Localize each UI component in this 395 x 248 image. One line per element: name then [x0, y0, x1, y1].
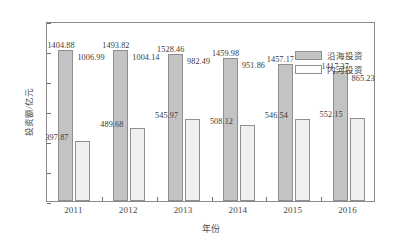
value-label-inland: 545.97 [155, 111, 178, 120]
y-axis-title: 投资额/亿元 [22, 88, 34, 135]
plot-area: 1404.881006.99397.871493.821004.14489.68… [46, 22, 375, 202]
legend-swatch-coastal [295, 51, 322, 60]
value-label-inland: 489.68 [100, 120, 123, 129]
y-tick [47, 203, 51, 204]
x-tick-label: 2015 [283, 205, 302, 215]
bar-inland [130, 128, 145, 201]
x-tick-label: 2013 [174, 205, 193, 215]
value-label-coastal: 1004.14 [132, 53, 159, 62]
x-tick [102, 197, 103, 201]
value-label-coastal: 1006.99 [77, 53, 104, 62]
bar-inland [240, 125, 255, 201]
legend-label-coastal: 沿海投资 [327, 49, 363, 61]
bar-coastal [168, 54, 183, 201]
value-label-coastal-upper: 1493.82 [102, 41, 129, 50]
legend: 沿海投资 内河投资 [290, 45, 368, 79]
bar-coastal [223, 58, 238, 201]
x-axis-title: 年份 [202, 222, 220, 235]
x-tick-label: 2014 [229, 205, 248, 215]
value-label-coastal: 982.49 [187, 57, 210, 66]
value-label-coastal-upper: 1404.88 [47, 41, 74, 50]
bar-chart: 投资额/亿元 年份 1404.881006.99397.871493.82100… [0, 0, 395, 248]
value-label-coastal-upper: 1528.46 [157, 45, 184, 54]
bar-coastal [278, 64, 293, 201]
x-tick-label: 2016 [338, 205, 357, 215]
y-tick [47, 143, 51, 144]
legend-swatch-inland [295, 65, 322, 74]
value-label-coastal: 951.86 [242, 61, 265, 70]
bar-inland [295, 119, 310, 201]
bar-inland [185, 119, 200, 201]
x-tick-label: 2012 [119, 205, 138, 215]
x-tick [157, 197, 158, 201]
x-tick [321, 197, 322, 201]
x-tick [212, 197, 213, 201]
value-label-inland: 397.87 [45, 133, 68, 142]
y-tick [47, 173, 51, 174]
value-label-inland: 546.54 [265, 111, 288, 120]
value-label-coastal-upper: 1459.98 [212, 49, 239, 58]
y-tick [47, 23, 51, 24]
bar-coastal [333, 71, 348, 201]
value-label-inland: 508.12 [210, 117, 233, 126]
bar-coastal [58, 50, 73, 201]
y-tick [47, 83, 51, 84]
x-tick [266, 197, 267, 201]
y-tick [47, 113, 51, 114]
legend-item-coastal: 沿海投资 [295, 49, 363, 61]
legend-label-inland: 内河投资 [327, 63, 363, 75]
x-tick-label: 2011 [64, 205, 82, 215]
value-label-inland: 552.15 [320, 110, 343, 119]
bar-inland [75, 141, 90, 201]
legend-item-inland: 内河投资 [295, 63, 363, 75]
bar-inland [350, 118, 365, 201]
y-tick [47, 53, 51, 54]
